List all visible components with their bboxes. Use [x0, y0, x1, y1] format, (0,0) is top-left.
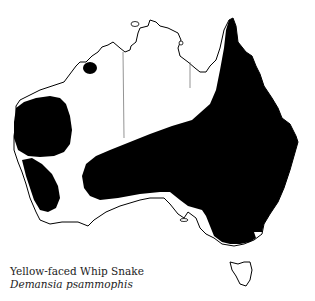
island-north: [131, 22, 139, 27]
island-gulf: [179, 41, 183, 45]
island-kangaroo: [180, 219, 188, 222]
range-top-end: [83, 62, 97, 74]
range-western: [14, 96, 72, 157]
species-common-name: Yellow-faced Whip Snake: [10, 265, 144, 278]
tasmania-coastline: [230, 262, 252, 286]
species-scientific-name: Demansia psammophis: [10, 278, 144, 291]
map-caption: Yellow-faced Whip Snake Demansia psammop…: [10, 265, 144, 291]
australia-distribution-map: [0, 0, 315, 301]
